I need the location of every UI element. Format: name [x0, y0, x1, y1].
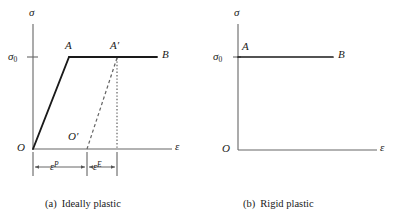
- panel-rigid-plastic: σ σ0 ε O A B (b)Rigid plastic: [205, 0, 415, 221]
- caption-panel-a: (a)Ideally plastic: [45, 198, 121, 209]
- axis-label-sigma-b: σ: [234, 7, 239, 18]
- point-label-O-prime-a: O′: [68, 131, 78, 142]
- caption-tag-a: (a): [45, 198, 57, 209]
- origin-label-a: O: [17, 142, 25, 153]
- caption-text-b: Rigid plastic: [260, 198, 313, 209]
- axis-label-sigma0-b: σ0: [213, 51, 222, 63]
- figure-root: σ σ0 ε O A A′ B O′ εP εE (a)Ideally plas…: [0, 0, 415, 221]
- caption-text-a: Ideally plastic: [62, 198, 121, 209]
- unloading-line-dashed: [87, 58, 117, 149]
- plot-ideally-plastic: [0, 0, 210, 221]
- origin-label-b: O: [222, 143, 230, 154]
- axis-label-sigma-a: σ: [29, 7, 34, 18]
- point-label-B-b: B: [338, 49, 345, 60]
- strain-label-elastic: εE: [93, 161, 102, 172]
- plot-rigid-plastic: [205, 0, 415, 221]
- point-label-A-a: A: [65, 40, 72, 51]
- caption-panel-b: (b)Rigid plastic: [243, 198, 314, 209]
- elastic-loading-segment-OA: [33, 57, 69, 149]
- strain-label-plastic: εP: [50, 161, 59, 172]
- panel-ideally-plastic: σ σ0 ε O A A′ B O′ εP εE (a)Ideally plas…: [0, 0, 210, 221]
- point-label-A-b: A: [242, 41, 249, 52]
- point-label-A-prime-a: A′: [110, 40, 119, 51]
- axis-label-epsilon-b: ε: [380, 142, 384, 153]
- point-label-B-a: B: [162, 49, 169, 60]
- axis-label-sigma0-a: σ0: [8, 51, 17, 63]
- caption-tag-b: (b): [243, 198, 255, 209]
- axis-label-epsilon-a: ε: [175, 141, 179, 152]
